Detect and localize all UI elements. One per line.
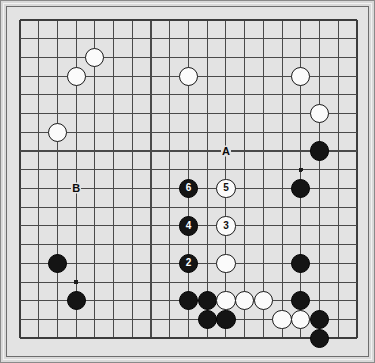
star-point: [74, 280, 78, 284]
stone-black[interactable]: [216, 310, 235, 329]
stone-black-move-2[interactable]: 2: [179, 254, 198, 273]
stone-white[interactable]: [179, 67, 198, 86]
stone-white[interactable]: [216, 291, 235, 310]
stone-move-number: 3: [217, 221, 234, 231]
stone-black-move-4[interactable]: 4: [179, 216, 198, 235]
stone-white[interactable]: [291, 67, 310, 86]
stone-black[interactable]: [310, 141, 329, 160]
stone-black[interactable]: [310, 329, 329, 348]
board-playing-surface[interactable]: 65432 AB: [9, 9, 368, 356]
stone-black[interactable]: [67, 291, 86, 310]
stone-black[interactable]: [198, 310, 217, 329]
marker-a: A: [221, 146, 231, 157]
stone-white[interactable]: [216, 254, 235, 273]
stone-black[interactable]: [48, 254, 67, 273]
stone-move-number: 2: [180, 258, 197, 268]
marker-b: B: [71, 183, 81, 194]
stone-black[interactable]: [310, 310, 329, 329]
stone-move-number: 6: [180, 183, 197, 193]
stone-white[interactable]: [272, 310, 291, 329]
star-point: [299, 168, 303, 172]
stone-white[interactable]: [48, 123, 67, 142]
stone-black-move-6[interactable]: 6: [179, 179, 198, 198]
stone-black[interactable]: [198, 291, 217, 310]
stone-white-move-3[interactable]: 3: [216, 216, 235, 235]
stone-move-number: 5: [217, 183, 234, 193]
stone-white-move-5[interactable]: 5: [216, 179, 235, 198]
stone-move-number: 4: [180, 221, 197, 231]
go-board-diagram: 65432 AB: [0, 0, 375, 363]
stone-white[interactable]: [67, 67, 86, 86]
